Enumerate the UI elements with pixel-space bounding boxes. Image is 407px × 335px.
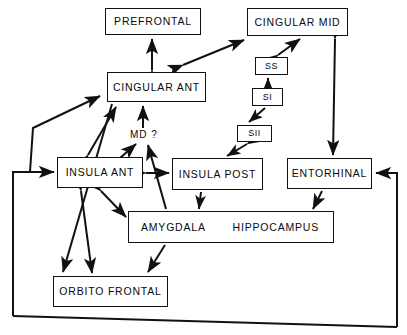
md-thalamus-label: MD ?	[130, 129, 158, 140]
node-sii[interactable]: SII	[237, 125, 272, 142]
edge-ss-cingular-mid	[278, 39, 300, 55]
node-ss[interactable]: SS	[255, 57, 288, 75]
node-prefrontal-label: PREFRONTAL	[114, 16, 192, 27]
edge-insula-post-amygdala	[199, 192, 201, 209]
edge-amygdala-orbito	[148, 245, 165, 272]
edge-sii-insula-post	[227, 144, 247, 156]
edge-cingular-ant-cingular-mid	[183, 40, 244, 65]
edge-cingular-mid-entorhinal	[333, 39, 335, 155]
edge-insula-ant-amygdala	[101, 191, 126, 217]
edge-insula-ant-cingular-ant	[88, 107, 116, 155]
node-insula-ant-label: INSULA ANT	[66, 167, 135, 178]
node-prefrontal[interactable]: PREFRONTAL	[105, 8, 201, 35]
node-entorhinal-label: ENTORHINAL	[292, 168, 368, 179]
node-ss-label: SS	[265, 62, 278, 71]
diagram-canvas: PREFRONTAL CINGULAR MID CINGULAR ANT SS …	[0, 0, 407, 335]
node-insula-post[interactable]: INSULA POST	[172, 158, 263, 190]
node-amygdala-label: AMYGDALA	[141, 222, 206, 233]
edge-entorhinal-hippocampus	[313, 191, 322, 209]
edge-amygdala-md	[148, 145, 166, 209]
edge-insula-ant-md	[120, 144, 136, 158]
node-sii-label: SII	[248, 129, 261, 138]
edge-outer-loop-insula-ant	[13, 172, 54, 316]
node-si-label: SI	[263, 93, 273, 102]
node-cingular-mid[interactable]: CINGULAR MID	[247, 8, 348, 36]
node-orbito-frontal[interactable]: ORBITO FRONTAL	[53, 276, 168, 307]
node-cingular-mid-label: CINGULAR MID	[254, 17, 340, 28]
edge-outer-loop-entorhinal	[376, 173, 397, 327]
node-cingular-ant-label: CINGULAR ANT	[113, 82, 200, 93]
node-amygdala-hippocampus[interactable]: AMYGDALA HIPPOCAMPUS	[128, 211, 334, 243]
node-orbito-frontal-label: ORBITO FRONTAL	[59, 286, 161, 297]
node-cingular-ant[interactable]: CINGULAR ANT	[107, 72, 206, 102]
edge-si-sii	[249, 108, 265, 122]
node-insula-post-label: INSULA POST	[179, 169, 257, 180]
node-entorhinal[interactable]: ENTORHINAL	[287, 158, 372, 189]
edge-outer-loop-bottom	[13, 316, 397, 327]
node-insula-ant[interactable]: INSULA ANT	[57, 157, 143, 188]
node-si[interactable]: SI	[252, 88, 283, 106]
node-hippocampus-label: HIPPOCAMPUS	[233, 222, 319, 233]
